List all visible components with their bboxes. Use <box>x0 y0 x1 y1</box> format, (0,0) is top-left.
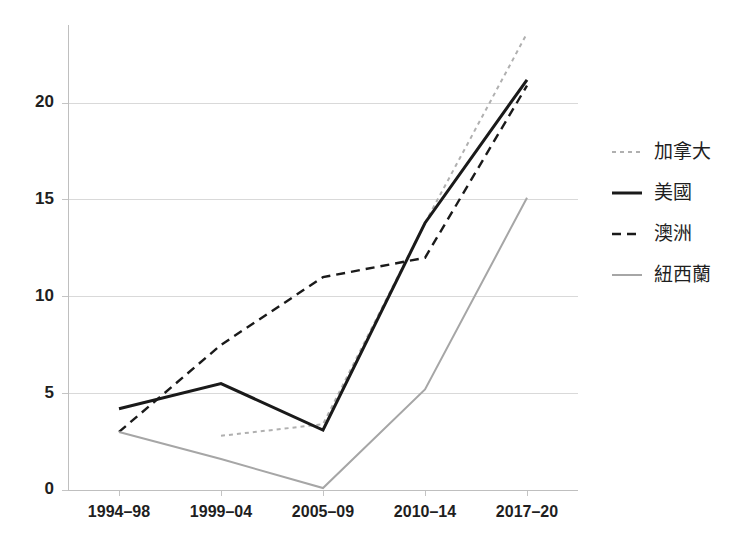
series-line-2 <box>119 86 527 432</box>
x-tick-label-0: 1994–98 <box>88 503 150 520</box>
y-tick-label-0: 0 <box>45 479 54 498</box>
y-tick-label-5: 5 <box>45 383 54 402</box>
series-line-0 <box>221 33 527 435</box>
gridlines-group <box>68 103 578 490</box>
data-series-group <box>119 33 527 488</box>
x-axis-tick-labels: 1994–981999–042005–092010–142017–20 <box>88 503 558 520</box>
line-chart: 05101520 1994–981999–042005–092010–14201… <box>0 0 730 552</box>
legend-label-2: 澳洲 <box>654 223 692 244</box>
legend-label-1: 美國 <box>654 182 692 203</box>
chart-legend: 加拿大美國澳洲紐西蘭 <box>612 140 711 285</box>
series-line-3 <box>119 198 527 488</box>
x-tick-label-1: 1999–04 <box>190 503 252 520</box>
legend-label-0: 加拿大 <box>654 140 711 162</box>
y-tick-label-15: 15 <box>35 189 54 208</box>
y-axis-tick-labels: 05101520 <box>35 92 54 498</box>
y-tick-label-10: 10 <box>35 286 54 305</box>
legend-label-3: 紐西蘭 <box>654 264 711 285</box>
x-tick-label-2: 2005–09 <box>292 503 354 520</box>
chart-canvas: 05101520 1994–981999–042005–092010–14201… <box>0 0 730 552</box>
y-tick-label-20: 20 <box>35 92 54 111</box>
x-tick-label-3: 2010–14 <box>394 503 456 520</box>
series-line-1 <box>119 80 527 430</box>
x-tick-label-4: 2017–20 <box>496 503 558 520</box>
tickmarks-group <box>62 103 527 496</box>
